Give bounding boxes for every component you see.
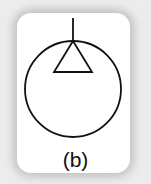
circle-outline xyxy=(25,41,121,137)
figure-label: (b) xyxy=(0,148,151,172)
triangle-icon xyxy=(54,41,92,72)
